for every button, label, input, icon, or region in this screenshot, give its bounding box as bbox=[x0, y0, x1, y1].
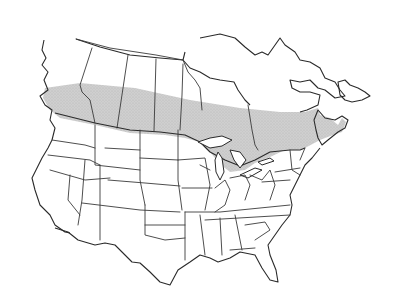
territories-line bbox=[76, 39, 183, 60]
range-map bbox=[0, 0, 400, 303]
west-coast bbox=[32, 40, 70, 233]
us-south-border bbox=[55, 148, 320, 285]
newfoundland-coast bbox=[338, 80, 370, 102]
